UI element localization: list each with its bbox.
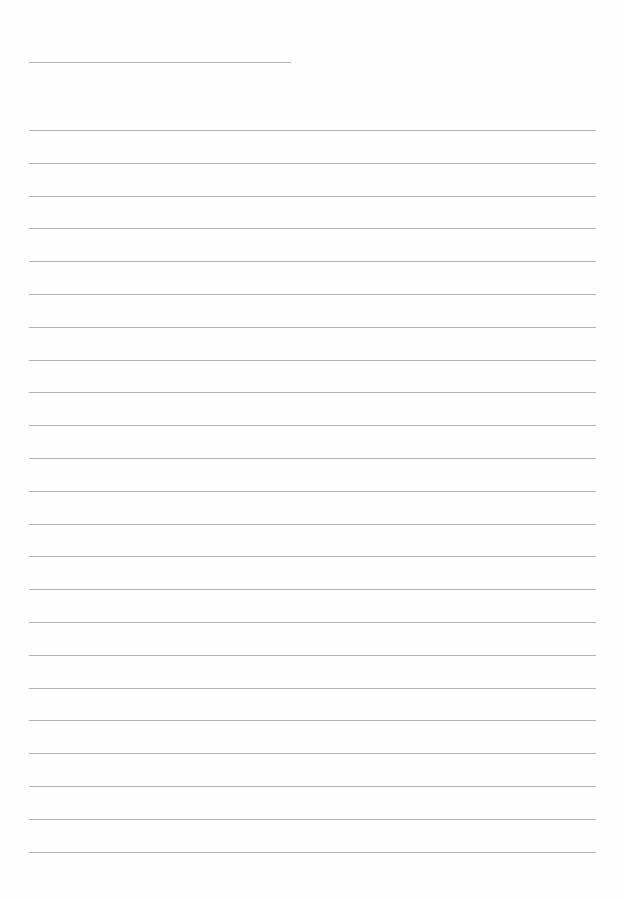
ruled-line	[29, 294, 596, 295]
ruled-line	[29, 228, 596, 229]
ruled-line	[29, 425, 596, 426]
ruled-line	[29, 491, 596, 492]
ruled-line	[29, 556, 596, 557]
ruled-line	[29, 688, 596, 689]
ruled-line	[29, 786, 596, 787]
lined-paper-page	[0, 0, 624, 899]
ruled-line	[29, 524, 596, 525]
header-line	[29, 62, 291, 63]
ruled-line	[29, 130, 596, 131]
ruled-line	[29, 622, 596, 623]
ruled-line	[29, 261, 596, 262]
ruled-line	[29, 655, 596, 656]
ruled-line	[29, 720, 596, 721]
ruled-line	[29, 753, 596, 754]
ruled-line	[29, 458, 596, 459]
ruled-line	[29, 360, 596, 361]
ruled-line	[29, 196, 596, 197]
ruled-line	[29, 392, 596, 393]
ruled-line	[29, 852, 596, 853]
ruled-line	[29, 819, 596, 820]
ruled-line	[29, 163, 596, 164]
ruled-line	[29, 589, 596, 590]
ruled-line	[29, 327, 596, 328]
